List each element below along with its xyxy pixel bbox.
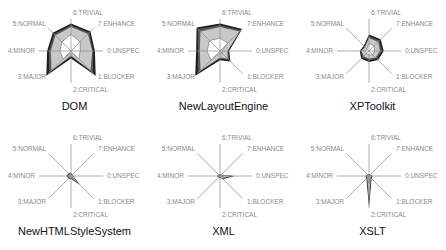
axis-label: 2:CRITICAL [73, 211, 108, 218]
axis-line [346, 51, 369, 74]
axis-label: 7:ENHANCE [98, 145, 136, 152]
axis-label: 2:CRITICAL [222, 86, 257, 93]
axis-line [197, 176, 220, 199]
axis-line [71, 176, 94, 199]
radar-chart-xml: 0:UNSPEC1:BLOCKER2:CRITICAL3:MAJOR4:MINO… [149, 125, 298, 250]
axis-label: 6:TRIVIAL [371, 134, 401, 141]
axis-label: 0:UNSPEC [256, 172, 289, 179]
axis-label: 1:BLOCKER [247, 73, 284, 80]
axis-label: 3:MAJOR [316, 198, 344, 205]
axis-label: 3:MAJOR [18, 73, 46, 80]
axis-label: 6:TRIVIAL [222, 134, 252, 141]
chart-title: NewHTMLStyleSystem [0, 225, 149, 237]
axis-label: 5:NORMAL [13, 145, 47, 152]
axis-label: 1:BLOCKER [98, 198, 135, 205]
axis-label: 0:UNSPEC [405, 172, 438, 179]
chart-title: XPToolkit [298, 100, 446, 112]
axis-label: 0:UNSPEC [107, 172, 140, 179]
axis-label: 7:ENHANCE [396, 145, 434, 152]
axis-label: 0:UNSPEC [256, 47, 289, 54]
radar-chart-newlayoutengine: 0:UNSPEC1:BLOCKER2:CRITICAL3:MAJOR4:MINO… [149, 0, 298, 125]
axis-line [346, 28, 369, 51]
axis-label: 3:MAJOR [18, 198, 46, 205]
axis-label: 1:BLOCKER [396, 198, 433, 205]
radar-chart-newhtmlstylesystem: 0:UNSPEC1:BLOCKER2:CRITICAL3:MAJOR4:MINO… [0, 125, 149, 250]
axis-label: 4:MINOR [306, 172, 333, 179]
axis-label: 5:NORMAL [162, 145, 196, 152]
axis-label: 0:UNSPEC [405, 47, 438, 54]
axis-label: 7:ENHANCE [247, 145, 285, 152]
axis-line [220, 153, 243, 176]
axis-label: 2:CRITICAL [222, 211, 257, 218]
chart-title: XML [149, 225, 298, 237]
axis-label: 3:MAJOR [316, 73, 344, 80]
axis-label: 6:TRIVIAL [73, 9, 103, 16]
chart-title: NewLayoutEngine [149, 100, 298, 112]
radar-chart-grid: 0:UNSPEC1:BLOCKER2:CRITICAL3:MAJOR4:MINO… [0, 0, 446, 250]
radar-chart-xslt: 0:UNSPEC1:BLOCKER2:CRITICAL3:MAJOR4:MINO… [298, 125, 446, 250]
axis-line [220, 51, 243, 74]
axis-line [369, 176, 392, 199]
axis-label: 5:NORMAL [311, 145, 345, 152]
axis-label: 5:NORMAL [162, 20, 196, 27]
radar-chart-xptoolkit: 0:UNSPEC1:BLOCKER2:CRITICAL3:MAJOR4:MINO… [298, 0, 446, 125]
axis-label: 4:MINOR [8, 172, 35, 179]
axis-label: 6:TRIVIAL [371, 9, 401, 16]
axis-label: 1:BLOCKER [247, 198, 284, 205]
axis-label: 4:MINOR [8, 47, 35, 54]
axis-label: 5:NORMAL [311, 20, 345, 27]
axis-line [346, 153, 369, 176]
axis-line [369, 153, 392, 176]
axis-label: 7:ENHANCE [98, 20, 136, 27]
radar-chart-dom: 0:UNSPEC1:BLOCKER2:CRITICAL3:MAJOR4:MINO… [0, 0, 149, 125]
axis-label: 3:MAJOR [167, 73, 195, 80]
chart-title: DOM [0, 100, 149, 112]
axis-label: 4:MINOR [157, 172, 184, 179]
axis-label: 7:ENHANCE [396, 20, 434, 27]
axis-line [197, 153, 220, 176]
axis-label: 6:TRIVIAL [222, 9, 252, 16]
axis-label: 5:NORMAL [13, 20, 47, 27]
axis-line [48, 153, 71, 176]
axis-line [71, 153, 94, 176]
axis-label: 6:TRIVIAL [73, 134, 103, 141]
axis-label: 1:BLOCKER [396, 73, 433, 80]
axis-line [346, 176, 369, 199]
axis-label: 3:MAJOR [167, 198, 195, 205]
axis-line [220, 176, 243, 199]
axis-label: 7:ENHANCE [247, 20, 285, 27]
axis-label: 2:CRITICAL [73, 86, 108, 93]
axis-label: 4:MINOR [306, 47, 333, 54]
axis-label: 1:BLOCKER [98, 73, 135, 80]
axis-label: 2:CRITICAL [371, 86, 406, 93]
axis-line [48, 176, 71, 199]
axis-label: 4:MINOR [157, 47, 184, 54]
axis-label: 2:CRITICAL [371, 211, 406, 218]
chart-title: XSLT [298, 225, 446, 237]
axis-label: 0:UNSPEC [107, 47, 140, 54]
